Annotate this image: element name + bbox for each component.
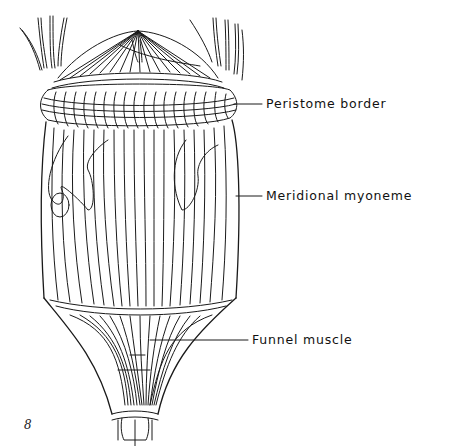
label-peristome-border: Peristome border — [266, 96, 386, 111]
organism-drawing — [0, 0, 450, 446]
macronucleus — [49, 136, 218, 217]
label-funnel-muscle: Funnel muscle — [252, 332, 352, 347]
funnel — [50, 300, 248, 405]
meridional-myonemes — [52, 126, 262, 306]
cilia-left — [20, 16, 67, 70]
label-meridional-myoneme: Meridional myoneme — [266, 188, 412, 203]
figure-number: 8 — [24, 418, 32, 432]
oral-dome — [52, 31, 224, 88]
stalk — [112, 411, 158, 446]
peristome-border — [41, 84, 263, 128]
